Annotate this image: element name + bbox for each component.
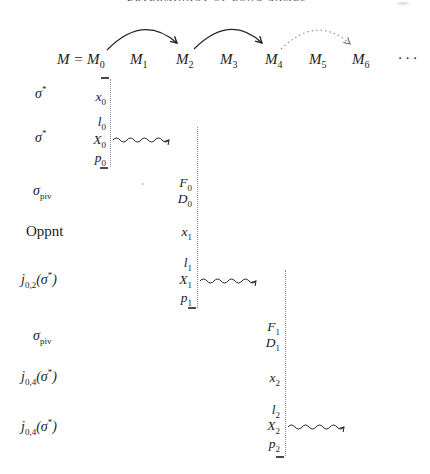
row-label-j04-sigma-star-1: j0,4(σ*) bbox=[21, 369, 57, 385]
paper-page: DETERMINACY OF LONG GAMES M = M0 M1 M2 M… bbox=[0, 0, 430, 474]
move-p0: p0 bbox=[62, 150, 106, 166]
sequence-ellipsis: · · · bbox=[398, 50, 417, 67]
model-m1: M1 bbox=[130, 51, 148, 68]
move-X2: X2 bbox=[236, 418, 280, 434]
move-x2: x2 bbox=[236, 370, 280, 386]
line3-bottom-tick bbox=[276, 456, 284, 458]
move-l0: l0 bbox=[62, 114, 106, 130]
move-D0: D0 bbox=[148, 191, 192, 207]
arc-m0-m2-icon bbox=[107, 30, 177, 50]
move-D1: D1 bbox=[236, 335, 280, 351]
line2-dotted-vertical bbox=[197, 127, 198, 308]
move-F0: F0 bbox=[148, 175, 192, 191]
model-m3: M3 bbox=[220, 51, 238, 68]
model-m5: M5 bbox=[309, 51, 327, 68]
row-label-j04-sigma-star-2: j0,4(σ*) bbox=[21, 419, 57, 435]
row-label-sigma-star-2: σ* bbox=[35, 130, 46, 146]
model-m2: M2 bbox=[176, 51, 194, 68]
line1-dotted-vertical bbox=[110, 79, 111, 167]
model-m0: M = M0 bbox=[57, 51, 105, 68]
line3-dotted-vertical bbox=[285, 270, 286, 456]
row-label-sigma-piv-2: σpiv bbox=[33, 328, 51, 344]
row-label-sigma-star-1: σ* bbox=[35, 86, 46, 102]
model-m4: M4 bbox=[265, 51, 283, 68]
row-label-opponent: Oppnt bbox=[26, 223, 64, 240]
move-l1: l1 bbox=[148, 255, 192, 271]
move-X1: X1 bbox=[148, 272, 192, 288]
move-F1: F1 bbox=[236, 319, 280, 335]
move-p1: p1 bbox=[148, 290, 192, 306]
wavy-arrow-1-icon bbox=[112, 134, 178, 146]
wavy-arrow-2-icon bbox=[199, 275, 265, 287]
move-l2: l2 bbox=[236, 402, 280, 418]
wavy-arrow-3-icon bbox=[287, 421, 353, 433]
line1-top-tick bbox=[101, 77, 109, 79]
row-label-j02-sigma-star: j0,2(σ*) bbox=[21, 272, 57, 288]
row-label-sigma-piv-1: σpiv bbox=[33, 183, 51, 199]
move-X0: X0 bbox=[62, 132, 106, 148]
move-p2: p2 bbox=[236, 436, 280, 452]
ink-speck bbox=[141, 183, 144, 185]
move-x0: x0 bbox=[62, 89, 106, 105]
model-m6: M6 bbox=[352, 51, 370, 68]
arc-m2-m4-icon bbox=[194, 29, 262, 49]
move-x1: x1 bbox=[148, 224, 192, 240]
arc-m4-m6-dotted-icon bbox=[281, 30, 350, 49]
